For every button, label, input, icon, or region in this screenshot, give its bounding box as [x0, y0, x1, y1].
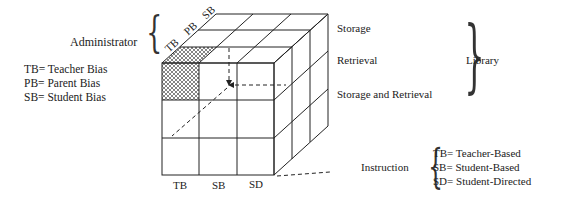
legend-teacher-bias: TB= Teacher Bias [24, 64, 107, 76]
administrator-label: Administrator [70, 36, 137, 48]
column-label-tb: TB [173, 180, 187, 191]
row-label-storage: Storage [337, 23, 371, 34]
legend-student-bias: SB= Student Bias [24, 92, 106, 104]
column-label-sb: SB [212, 180, 225, 191]
legend-student-based: SB= Student-Based [433, 162, 520, 173]
administrator-brace-icon: { [146, 12, 162, 54]
row-label-storage-and-retrieval: Storage and Retrieval [337, 89, 432, 100]
column-label-sd: SD [249, 179, 263, 190]
dashed-leader-instruction [277, 172, 330, 176]
library-label: Library [466, 55, 499, 66]
right-face [274, 14, 328, 175]
instruction-label: Instruction [361, 162, 409, 173]
row-label-retrieval: Retrieval [337, 55, 377, 66]
legend-teacher-based: TB= Teacher-Based [433, 148, 521, 159]
legend-parent-bias: PB= Parent Bias [24, 78, 100, 90]
highlighted-front-cell [162, 63, 199, 100]
legend-student-directed: SD= Student-Directed [433, 176, 531, 187]
